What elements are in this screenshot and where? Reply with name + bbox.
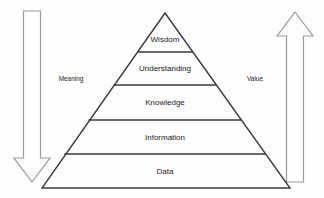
tier-label-data: Data — [157, 167, 174, 176]
meaning-arrow-label: Meaning — [59, 75, 84, 83]
diagram-canvas: Meaning Value Wisdom Understanding Knowl… — [0, 0, 324, 198]
meaning-arrow — [14, 11, 50, 182]
value-arrow-label: Value — [247, 75, 263, 82]
dikw-pyramid-diagram: Meaning Value Wisdom Understanding Knowl… — [0, 0, 324, 198]
tier-label-understanding: Understanding — [139, 64, 191, 73]
tier-label-information: Information — [145, 133, 185, 142]
tier-label-knowledge: Knowledge — [145, 98, 185, 107]
tier-label-wisdom: Wisdom — [151, 35, 180, 44]
value-arrow — [277, 12, 313, 182]
value-arrow-shape — [277, 12, 313, 182]
meaning-arrow-shape — [14, 11, 50, 182]
